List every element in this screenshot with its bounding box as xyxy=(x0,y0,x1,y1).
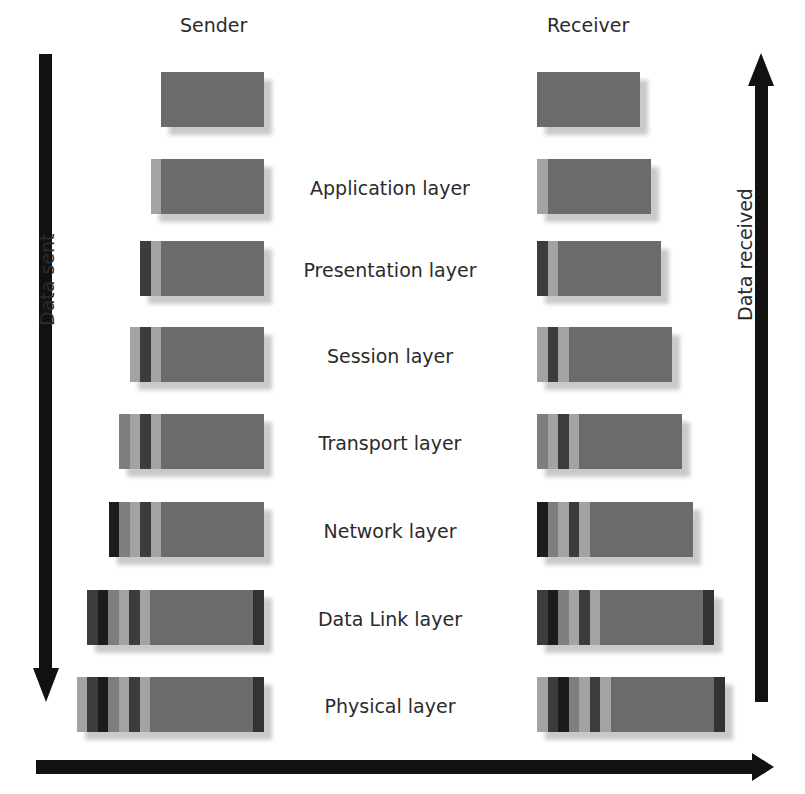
header-stripe xyxy=(151,502,162,557)
payload xyxy=(548,159,651,214)
payload xyxy=(161,241,264,296)
header-stripe xyxy=(119,502,130,557)
header-stripe xyxy=(537,327,548,382)
arrow-down-icon xyxy=(33,668,59,704)
layer-label: Data Link layer xyxy=(318,608,462,630)
sender-packet-4 xyxy=(119,414,264,469)
header-stripe xyxy=(87,677,98,732)
header-stripe xyxy=(130,502,141,557)
data-received-arrow-shaft xyxy=(755,84,768,702)
payload xyxy=(537,72,640,127)
header-stripe xyxy=(140,414,151,469)
header-stripe xyxy=(558,502,569,557)
payload xyxy=(161,159,264,214)
header-stripe xyxy=(537,241,548,296)
header-stripe xyxy=(548,241,559,296)
header-stripe xyxy=(140,241,151,296)
receiver-packet-3 xyxy=(537,327,672,382)
sender-packet-1 xyxy=(151,159,265,214)
header-stripe xyxy=(129,677,140,732)
sender-title: Sender xyxy=(180,14,247,36)
trailer-stripe xyxy=(253,590,264,645)
header-stripe xyxy=(140,677,151,732)
header-stripe xyxy=(109,502,120,557)
data-sent-label: Data sent xyxy=(36,236,58,326)
payload xyxy=(590,502,693,557)
header-stripe xyxy=(108,677,119,732)
receiver-packet-6 xyxy=(537,590,714,645)
receiver-packet-1 xyxy=(537,159,651,214)
data-received-label: Data received xyxy=(734,181,756,321)
payload xyxy=(600,590,703,645)
trailer-stripe xyxy=(253,677,264,732)
header-stripe xyxy=(98,590,109,645)
header-stripe xyxy=(140,590,151,645)
header-stripe xyxy=(129,590,140,645)
layer-label: Transport layer xyxy=(319,432,462,454)
receiver-packet-2 xyxy=(537,241,661,296)
header-stripe xyxy=(558,327,569,382)
header-stripe xyxy=(119,414,130,469)
header-stripe xyxy=(130,414,141,469)
payload xyxy=(611,677,714,732)
header-stripe xyxy=(569,590,580,645)
header-stripe xyxy=(579,502,590,557)
header-stripe xyxy=(558,414,569,469)
header-stripe xyxy=(537,590,548,645)
header-stripe xyxy=(548,590,559,645)
payload xyxy=(579,414,682,469)
receiver-packet-5 xyxy=(537,502,693,557)
sender-packet-2 xyxy=(140,241,264,296)
payload xyxy=(150,677,253,732)
header-stripe xyxy=(98,677,109,732)
payload xyxy=(161,502,264,557)
header-stripe xyxy=(548,327,559,382)
header-stripe xyxy=(558,590,569,645)
header-stripe xyxy=(108,590,119,645)
payload xyxy=(150,590,253,645)
arrow-up-icon xyxy=(748,53,774,87)
payload xyxy=(161,414,264,469)
payload xyxy=(569,327,672,382)
arrow-right-icon xyxy=(752,753,776,781)
header-stripe xyxy=(569,677,580,732)
transmission-arrow-shaft xyxy=(36,760,756,774)
header-stripe xyxy=(140,502,151,557)
layer-label: Session layer xyxy=(327,345,453,367)
header-stripe xyxy=(548,677,559,732)
trailer-stripe xyxy=(714,677,725,732)
header-stripe xyxy=(151,159,162,214)
header-stripe xyxy=(151,414,162,469)
sender-packet-3 xyxy=(130,327,265,382)
payload xyxy=(161,327,264,382)
trailer-stripe xyxy=(703,590,714,645)
header-stripe xyxy=(119,590,130,645)
header-stripe xyxy=(151,241,162,296)
layer-label: Physical layer xyxy=(325,695,456,717)
header-stripe xyxy=(537,677,548,732)
header-stripe xyxy=(600,677,611,732)
header-stripe xyxy=(579,677,590,732)
layer-label: Application layer xyxy=(310,177,470,199)
receiver-title: Receiver xyxy=(547,14,629,36)
header-stripe xyxy=(77,677,88,732)
header-stripe xyxy=(140,327,151,382)
sender-packet-0 xyxy=(161,72,264,127)
header-stripe xyxy=(548,502,559,557)
header-stripe xyxy=(558,677,569,732)
header-stripe xyxy=(579,590,590,645)
receiver-packet-0 xyxy=(537,72,640,127)
header-stripe xyxy=(537,414,548,469)
layer-label: Network layer xyxy=(323,520,456,542)
header-stripe xyxy=(569,502,580,557)
payload xyxy=(161,72,264,127)
data-sent-arrow-shaft xyxy=(39,54,52,672)
layer-label: Presentation layer xyxy=(303,259,476,281)
receiver-packet-4 xyxy=(537,414,682,469)
header-stripe xyxy=(537,159,548,214)
header-stripe xyxy=(569,414,580,469)
receiver-packet-7 xyxy=(537,677,725,732)
sender-packet-7 xyxy=(77,677,265,732)
sender-packet-6 xyxy=(87,590,264,645)
header-stripe xyxy=(151,327,162,382)
